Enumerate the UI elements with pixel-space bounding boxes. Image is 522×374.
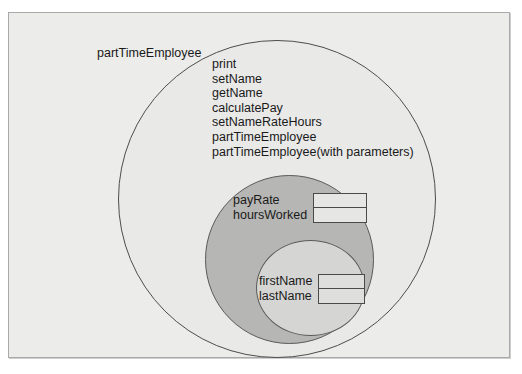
attribute-value-cell xyxy=(319,275,364,289)
method-item: calculatePay xyxy=(212,101,414,116)
attribute-name: firstName xyxy=(259,274,312,289)
class-name-label: partTimeEmployee xyxy=(97,46,201,60)
diagram-canvas: partTimeEmployee print setName getName c… xyxy=(0,0,522,374)
attribute-name: lastName xyxy=(259,289,312,304)
method-item: partTimeEmployee(with parameters) xyxy=(212,145,414,160)
attribute-value-cell xyxy=(314,208,366,222)
attribute-value-cell xyxy=(319,289,364,303)
attribute-value-cell xyxy=(314,194,366,208)
middle-attribute-value-box xyxy=(313,193,367,223)
method-list: print setName getName calculatePay setNa… xyxy=(212,57,414,159)
method-item: partTimeEmployee xyxy=(212,130,414,145)
method-item: getName xyxy=(212,86,414,101)
method-item: print xyxy=(212,57,414,72)
inner-attribute-group: firstName lastName xyxy=(259,274,365,304)
middle-attribute-group: payRate hoursWorked xyxy=(233,193,367,223)
method-item: setNameRateHours xyxy=(212,115,414,130)
inner-attribute-value-box xyxy=(318,274,365,304)
attribute-name: payRate xyxy=(233,193,307,208)
method-item: setName xyxy=(212,72,414,87)
attribute-name: hoursWorked xyxy=(233,208,307,223)
inner-attribute-labels: firstName lastName xyxy=(259,274,312,304)
middle-attribute-labels: payRate hoursWorked xyxy=(233,193,307,223)
diagram-frame: partTimeEmployee print setName getName c… xyxy=(8,12,510,358)
